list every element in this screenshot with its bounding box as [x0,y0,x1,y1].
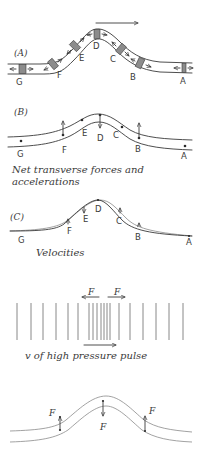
caption-pulse-velocity: v of high pressure pulse [25,350,147,361]
point-label-e: E [83,214,88,224]
element-f [47,58,58,70]
point-label-a: A [180,76,186,86]
point-label-d: D [97,133,104,143]
element-a [182,64,186,73]
force-label-right: F [148,406,156,416]
point-label-f: F [67,226,72,236]
point-label-f: F [57,70,62,80]
point-label-d: D [95,204,102,214]
panel-c: (C) F E D C B A G Velocities [10,199,192,258]
point-g [20,140,23,143]
caption-velocities: Velocities [36,247,85,258]
point-label-c: C [113,130,119,140]
panel-a: (A) G F E D [8,23,193,87]
element-b [135,57,145,69]
force-label-center: F [99,422,107,432]
tube-lower-edge [8,39,192,74]
force-label-right: F [113,287,121,297]
wave-diagram: (A) G F E D [0,0,208,468]
element-g [19,65,26,74]
panel-d: F F v of high pressure pulse [17,287,183,361]
panel-b: (B) G F E D C B A Net transverse forces … [8,107,192,187]
panel-a-label: (A) [14,48,28,58]
point-label-g: G [17,149,24,159]
point-label-c: C [116,216,122,226]
point-c [121,126,124,129]
point-label-c: C [110,54,116,64]
panel-c-label: (C) [10,212,24,222]
point-e [81,119,84,122]
point-label-b: B [130,72,136,82]
force-label-left: F [87,287,95,297]
panel-e: F F F [10,396,192,442]
point-label-g: G [18,235,25,245]
caption-forces: Net transverse forces and [11,164,144,175]
point-a [184,145,187,148]
point-label-e: E [79,53,84,63]
point-label-g: G [16,77,23,87]
point-label-d: D [93,41,100,51]
point-label-b: B [135,232,141,242]
force-label-left: F [48,408,56,418]
point-label-f: F [62,145,67,155]
pressure-lines [17,303,183,340]
element-d [94,30,100,39]
point-label-e: E [82,128,87,138]
point-label-a: A [181,151,187,161]
caption-accelerations: accelerations [12,176,80,187]
point-label-b: B [135,144,141,154]
point-label-a: A [186,237,192,247]
element-c [115,43,126,55]
panel-b-label: (B) [14,107,28,117]
